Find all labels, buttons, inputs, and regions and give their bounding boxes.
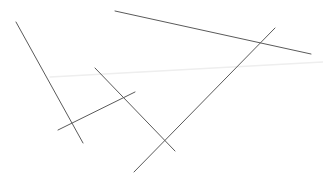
line-drawing-canvas bbox=[0, 0, 323, 183]
line-a bbox=[16, 22, 83, 143]
line-b bbox=[115, 11, 311, 54]
faint-line bbox=[50, 62, 323, 77]
line-e bbox=[58, 92, 135, 130]
line-d bbox=[95, 68, 175, 151]
line-c bbox=[134, 28, 275, 172]
